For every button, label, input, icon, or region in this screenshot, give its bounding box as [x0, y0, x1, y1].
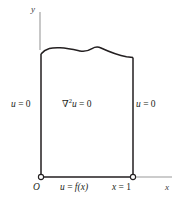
right-boundary-condition-label: u = 0 [136, 100, 156, 110]
laplace-boundary-value-figure: y x u = 0 u = 0 ∇2u = 0 O u = f(x) x = 1 [0, 0, 178, 204]
x-equals-one-rhs: 1 [126, 182, 131, 192]
origin-label: O [33, 183, 40, 193]
bottom-boundary-condition-label: u = f(x) [60, 183, 88, 193]
x-equals-one-operator: = [116, 182, 126, 192]
laplace-equation-label: ∇2u = 0 [62, 100, 92, 110]
x-equals-one-label: x = 1 [112, 183, 131, 193]
bottom-boundary-rhs: f(x) [75, 182, 88, 192]
nabla-icon: ∇ [62, 99, 69, 109]
region-side-and-bottom-boundary [41, 54, 133, 177]
laplace-rhs: 0 [87, 99, 92, 109]
left-boundary-operator: = [16, 99, 26, 109]
wavy-top-boundary [41, 47, 133, 57]
right-boundary-rhs: 0 [151, 99, 156, 109]
laplace-operator: = [77, 99, 87, 109]
x-axis-label: x [165, 183, 169, 192]
left-boundary-rhs: 0 [26, 99, 31, 109]
y-axis-label: y [31, 5, 35, 14]
origin-node-icon [38, 174, 43, 179]
right-boundary-operator: = [141, 99, 151, 109]
x-equals-one-node-icon [130, 174, 135, 179]
left-boundary-condition-label: u = 0 [11, 100, 31, 110]
bottom-boundary-operator: = [65, 182, 75, 192]
